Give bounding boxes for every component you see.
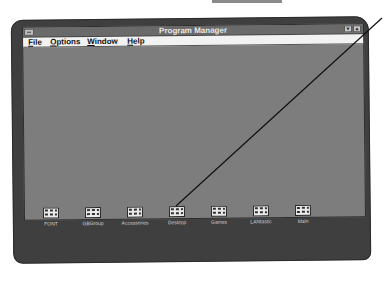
menu-options[interactable]: Options [50, 37, 80, 46]
group-icon-desktop[interactable]: Desktop [157, 206, 197, 225]
group-icon-font[interactable]: FONT [31, 207, 71, 226]
group-icon-main[interactable]: Main [283, 205, 323, 224]
minimize-button[interactable]: ▼ [344, 25, 352, 32]
program-manager-window: Program Manager ▼ ▲ File Options Window … [22, 23, 366, 221]
program-group-icon [43, 207, 59, 218]
program-group-icon [169, 206, 185, 217]
program-group-icon [127, 207, 143, 218]
program-group-icon [295, 205, 311, 216]
menu-window[interactable]: Window [87, 37, 118, 46]
program-group-icon [253, 205, 269, 216]
menu-bar: File Options Window Help [23, 34, 363, 48]
group-icon-accessories[interactable]: Accessories [115, 206, 155, 225]
menu-help[interactable]: Help [127, 37, 144, 46]
group-icon-gbgroup[interactable]: GBGroup [73, 207, 113, 226]
group-icon-lantastic[interactable]: LANtastic [241, 205, 281, 224]
maximize-button[interactable]: ▲ [353, 25, 361, 32]
program-group-icon [85, 207, 101, 218]
page-edge-decoration [212, 0, 282, 3]
menu-file[interactable]: File [28, 38, 42, 47]
group-icon-games[interactable]: Games [199, 206, 239, 225]
program-group-icon [211, 206, 227, 217]
